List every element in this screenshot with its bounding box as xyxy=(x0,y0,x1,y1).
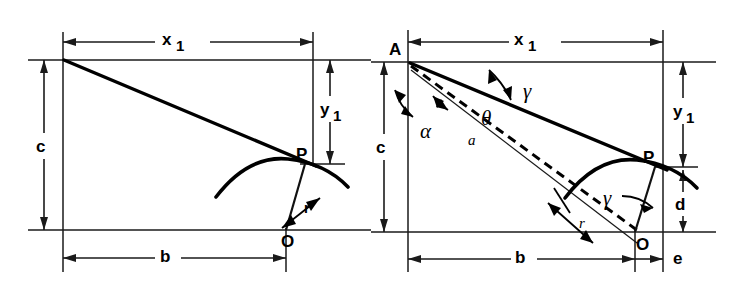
gamma-bottom-label: γ xyxy=(603,186,612,210)
figure-root: x 1 c y 1 b xyxy=(0,0,742,289)
sight-line xyxy=(64,60,316,166)
theta-angle xyxy=(433,96,448,110)
sight-line-r xyxy=(410,63,667,170)
alpha-angle xyxy=(395,90,413,117)
point-p-label: P xyxy=(296,145,307,164)
x1-label-base: x xyxy=(162,30,172,49)
c-label-r: c xyxy=(376,138,385,157)
r-label-r: r xyxy=(579,215,585,231)
alpha-label: α xyxy=(420,119,432,143)
gamma-bottom-angle xyxy=(622,196,653,213)
point-o-label: O xyxy=(281,232,294,251)
theta-label: θ xyxy=(481,106,491,130)
right-diagram: x 1 c y 1 d xyxy=(371,0,742,289)
y1-label-base-r: y xyxy=(673,102,683,121)
x1-label-sub-r: 1 xyxy=(528,37,536,54)
y1-label-base: y xyxy=(320,100,330,119)
a-label: a xyxy=(468,132,476,148)
point-o-label-r: O xyxy=(636,235,649,254)
b-label: b xyxy=(160,247,170,266)
b-label-r: b xyxy=(515,248,525,267)
c-label: c xyxy=(36,137,45,156)
b-dimension xyxy=(63,247,286,269)
x1-dimension xyxy=(63,31,313,53)
y1-label-sub: 1 xyxy=(333,107,341,124)
x1-label-base-r: x xyxy=(514,30,524,49)
d-label: d xyxy=(675,195,685,214)
e-label: e xyxy=(673,249,682,268)
left-diagram: x 1 c y 1 b xyxy=(0,0,371,289)
r-label: r xyxy=(304,200,310,216)
x1-label-sub: 1 xyxy=(176,37,184,54)
r-arrow-r xyxy=(548,188,593,243)
point-a-label: A xyxy=(389,40,401,59)
gamma-top-label: γ xyxy=(523,79,532,103)
y1-label-sub-r: 1 xyxy=(686,109,694,126)
r-arrow xyxy=(282,198,320,228)
point-p-label-r: P xyxy=(643,148,654,167)
e-dimension xyxy=(635,255,663,263)
